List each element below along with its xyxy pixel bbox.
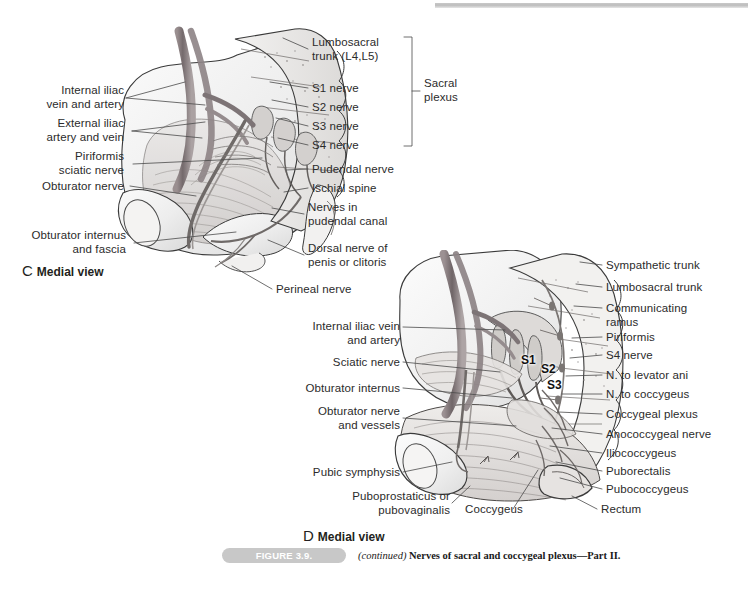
label-lumbosacral-trunk-c: Lumbosacral trunk (L4,L5) — [312, 36, 379, 63]
label-obturator-nerve-c: Obturator nerve — [12, 180, 124, 194]
label-puboprostaticus-or-pubovaginalis-d: Puboprostaticus or pubovaginalis — [310, 490, 450, 517]
panel-d-view: Medial view — [318, 530, 385, 544]
label-s3-nerve-c: S3 nerve — [312, 120, 359, 134]
figure-caption-title: Nerves of sacral and coccygeal plexus—Pa… — [409, 550, 620, 561]
label-anococcygeal-nerve-d: Anococcygeal nerve — [606, 428, 711, 442]
panel-c-letter: C — [22, 262, 33, 279]
figure-caption-text: (continued) Nerves of sacral and coccyge… — [358, 549, 620, 563]
label-rectum-d: Rectum — [601, 503, 641, 517]
label-s4-nerve-d: S4 nerve — [606, 349, 653, 363]
label-external-iliac-artery-and-vein-c: External iliac artery and vein — [12, 117, 124, 144]
label-ischial-spine-c: Ischial spine — [312, 182, 377, 196]
label-obturator-nerve-and-vessels-d: Obturator nerve and vessels — [282, 405, 400, 432]
label-nerves-in-pudendal-canal-c: Nerves in pudendal canal — [308, 201, 387, 228]
label-s2-nerve-c: S2 nerve — [312, 101, 359, 115]
label-perineal-nerve-c: Perineal nerve — [276, 283, 352, 297]
label-sympathetic-trunk-d: Sympathetic trunk — [606, 259, 700, 273]
label-n-to-levator-ani-d: N. to levator ani — [606, 369, 688, 383]
figure-caption: FIGURE 3.9. (continued) Nerves of sacral… — [222, 548, 742, 568]
panel-d-tag: DMedial view — [303, 527, 385, 544]
root-label-s3: S3 — [547, 378, 562, 392]
label-communicating-ramus-d: Communicating ramus — [606, 302, 687, 329]
label-lumbosacral-trunk-d: Lumbosacral trunk — [606, 281, 702, 295]
figure-continued-marker: (continued) — [358, 550, 406, 561]
panel-d-letter: D — [303, 527, 314, 544]
label-s4-nerve-c: S4 nerve — [312, 139, 359, 153]
label-internal-iliac-vein-and-artery-d: Internal iliac vein and artery — [282, 320, 400, 347]
label-pubococcygeus-d: Pubococcygeus — [606, 483, 689, 497]
label-puborectalis-d: Puborectalis — [606, 465, 670, 479]
label-s1-nerve-c: S1 nerve — [312, 82, 359, 96]
figure-number: FIGURE 3.9. — [222, 548, 346, 563]
page-header-rule — [435, 3, 748, 8]
label-obturator-internus-and-fascia-c: Obturator internus and fascia — [8, 229, 126, 256]
root-label-s2: S2 — [541, 362, 556, 376]
figure-number-pill: FIGURE 3.9. — [222, 548, 346, 563]
figure-page: Internal iliac vein and artery External … — [0, 0, 748, 594]
label-coccygeal-plexus-d: Coccygeal plexus — [606, 408, 698, 422]
label-piriformis-d: Piriformis — [606, 331, 655, 345]
panel-c-tag: CMedial view — [22, 262, 104, 279]
label-sciatic-nerve-d: Sciatic nerve — [282, 356, 400, 370]
root-label-s1: S1 — [521, 353, 536, 367]
label-sacral-plexus-bracket: Sacral plexus — [424, 77, 458, 104]
label-obturator-internus-d: Obturator internus — [276, 382, 400, 396]
label-piriformis-sciatic-nerve-c: Piriformis sciatic nerve — [12, 150, 124, 177]
label-pubic-symphysis-d: Pubic symphysis — [282, 466, 400, 480]
label-coccygeus-d: Coccygeus — [465, 503, 523, 517]
label-internal-iliac-vein-and-artery-c: Internal iliac vein and artery — [12, 84, 124, 111]
label-iliococcygeus-d: Iliococcygeus — [606, 447, 676, 461]
label-dorsal-nerve-of-penis-or-clitoris-c: Dorsal nerve of penis or clitoris — [308, 242, 387, 269]
label-pudendal-nerve-c: Pudendal nerve — [312, 163, 394, 177]
panel-c-view: Medial view — [37, 265, 104, 279]
label-n-to-coccygeus-d: N. to coccygeus — [606, 388, 689, 402]
